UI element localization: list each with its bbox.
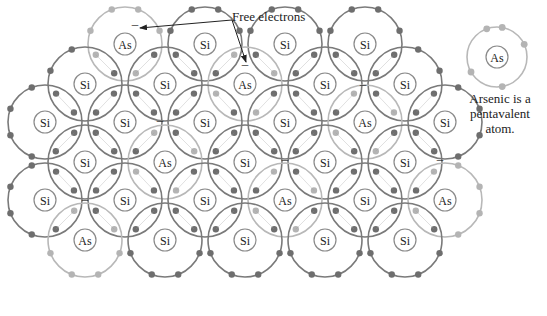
valence-electron — [309, 271, 315, 277]
valence-electron — [189, 6, 195, 12]
element-symbol: Si — [240, 234, 251, 248]
valence-electron — [367, 250, 373, 256]
element-symbol: Si — [360, 38, 371, 52]
element-symbol: Si — [120, 116, 131, 130]
arsenic-atom: As — [74, 229, 96, 251]
element-symbol: Si — [80, 78, 91, 92]
silicon-atom: Si — [74, 73, 96, 95]
valence-electron — [47, 68, 53, 74]
arsenic-atom: As — [354, 111, 376, 133]
free-electron-mark: – — [156, 112, 164, 127]
silicon-atom: Si — [394, 229, 416, 251]
valence-electron — [116, 250, 122, 256]
arsenic-atom: As — [114, 33, 136, 55]
free-electron-mark: – — [359, 76, 367, 91]
element-symbol: Si — [320, 234, 331, 248]
element-symbol: Si — [200, 38, 211, 52]
valence-electron — [175, 271, 181, 277]
valence-electron — [375, 6, 381, 12]
free-electron-mark: – — [281, 151, 289, 166]
valence-electron — [287, 250, 293, 256]
silicon-atom: Si — [394, 151, 416, 173]
element-symbol: As — [438, 194, 452, 208]
valence-electron — [29, 153, 35, 159]
standalone-arsenic-atom: As — [467, 24, 528, 90]
arsenic-atom: As — [274, 189, 296, 211]
element-symbol: Si — [40, 116, 51, 130]
valence-electron — [316, 28, 322, 34]
silicon-atom: Si — [114, 111, 136, 133]
valence-electron — [255, 271, 261, 277]
silicon-atom: Si — [114, 189, 136, 211]
lattice-svg: AsSiSiSiSiSiAsSiSiSiSiSiSiAsSiSiAsSiSiSi… — [0, 0, 547, 316]
valence-electron — [396, 28, 402, 34]
element-symbol: As — [358, 116, 372, 130]
valence-electron — [276, 250, 282, 256]
valence-electron — [215, 6, 221, 12]
silicon-atom: Si — [194, 111, 216, 133]
free-electron-mark: – — [81, 191, 89, 206]
silicon-atom: Si — [154, 229, 176, 251]
silicon-atom: Si — [274, 111, 296, 133]
arsenic-atom: As — [234, 73, 256, 95]
silicon-atom: Si — [314, 229, 336, 251]
silicon-atom: Si — [434, 111, 456, 133]
valence-electron — [483, 25, 490, 32]
element-symbol: Si — [280, 116, 291, 130]
caption-line-3: atom. — [465, 121, 535, 136]
element-symbol: Si — [400, 156, 411, 170]
arsenic-atom: As — [154, 151, 176, 173]
valence-electron — [327, 28, 333, 34]
valence-electron — [229, 271, 235, 277]
silicon-atom: Si — [234, 229, 256, 251]
valence-electron — [455, 84, 461, 90]
valence-electron — [95, 271, 101, 277]
valence-electron — [499, 24, 506, 31]
element-symbol: Si — [200, 116, 211, 130]
element-symbol: As — [158, 156, 172, 170]
valence-electron — [87, 28, 93, 34]
valence-electron — [499, 83, 506, 90]
element-symbol: Si — [40, 194, 51, 208]
element-symbol: Si — [280, 38, 291, 52]
valence-electron — [236, 28, 242, 34]
valence-electron — [436, 250, 442, 256]
element-symbol: Si — [360, 194, 371, 208]
valence-electron — [415, 271, 421, 277]
element-symbol: Si — [440, 116, 451, 130]
valence-electron — [455, 231, 461, 237]
valence-electron — [247, 28, 253, 34]
valence-electron — [196, 250, 202, 256]
silicon-atom: Si — [74, 151, 96, 173]
lattice-diagram: AsSiSiSiSiSiAsSiSiSiSiSiSiAsSiSiAsSiSiSi… — [0, 0, 547, 316]
valence-electron — [468, 69, 475, 76]
silicon-atom: Si — [314, 151, 336, 173]
valence-electron — [109, 6, 115, 12]
valence-electron — [167, 28, 173, 34]
element-symbol: As — [490, 51, 504, 65]
valence-electron — [356, 250, 362, 256]
element-symbol: As — [238, 78, 252, 92]
valence-electron — [29, 84, 35, 90]
element-symbol: Si — [320, 156, 331, 170]
valence-electron — [47, 250, 53, 256]
valence-electron — [29, 162, 35, 168]
valence-electron — [389, 271, 395, 277]
silicon-atom: Si — [194, 33, 216, 55]
element-symbol: Si — [400, 234, 411, 248]
silicon-atom: Si — [274, 33, 296, 55]
element-symbol: As — [278, 194, 292, 208]
valence-electron — [7, 132, 13, 138]
silicon-atom: Si — [154, 73, 176, 95]
valence-electron — [415, 46, 421, 52]
valence-electron — [436, 68, 442, 74]
element-symbol: Si — [200, 194, 211, 208]
valence-electron — [335, 271, 341, 277]
silicon-atom: Si — [34, 189, 56, 211]
valence-electron — [69, 46, 75, 52]
valence-electron — [7, 184, 13, 190]
valence-electron — [521, 41, 528, 48]
caption-line-1: Arsenic is a — [465, 91, 535, 106]
element-symbol: Si — [160, 234, 171, 248]
free-electron-mark: – — [131, 16, 139, 31]
